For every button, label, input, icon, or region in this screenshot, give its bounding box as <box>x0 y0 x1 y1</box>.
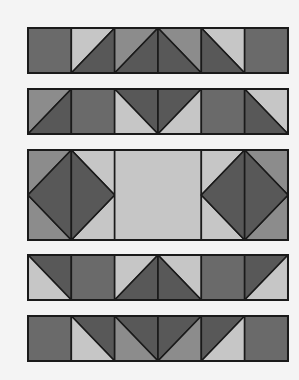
row-5 <box>28 316 288 361</box>
solid-panel <box>115 150 202 240</box>
solid-square <box>201 89 244 134</box>
quilt-block <box>71 89 114 134</box>
quilt-block <box>28 89 71 134</box>
quilt-block <box>245 255 288 300</box>
row-2 <box>28 89 288 134</box>
solid-square <box>71 89 114 134</box>
quilt-block <box>158 316 201 361</box>
row-1 <box>28 28 288 73</box>
quilt-block <box>201 316 244 361</box>
quilt-block <box>158 89 201 134</box>
quilt-block <box>28 316 71 361</box>
quilt-block <box>115 255 158 300</box>
diamond-block <box>201 150 288 240</box>
row-3 <box>28 150 288 240</box>
quilt-block <box>245 316 288 361</box>
quilt-block <box>201 255 244 300</box>
quilt-block <box>245 28 288 73</box>
solid-square <box>245 28 288 73</box>
quilt-block <box>115 316 158 361</box>
quilt-block <box>201 28 244 73</box>
quilt-block <box>71 28 114 73</box>
solid-square <box>245 316 288 361</box>
solid-square <box>71 255 114 300</box>
quilt-block <box>201 89 244 134</box>
quilt-block <box>158 28 201 73</box>
quilt-block <box>115 28 158 73</box>
quilt-block <box>28 255 71 300</box>
quilt-block <box>158 255 201 300</box>
quilt-block <box>115 89 158 134</box>
quilt-block <box>245 89 288 134</box>
quilt-block <box>71 316 114 361</box>
quilt-block <box>71 255 114 300</box>
solid-square <box>28 28 71 73</box>
quilt-pattern-canvas <box>0 0 299 380</box>
solid-square <box>28 316 71 361</box>
row-4 <box>28 255 288 300</box>
center-panel <box>115 150 202 240</box>
solid-square <box>201 255 244 300</box>
quilt-block <box>28 28 71 73</box>
diamond-block <box>28 150 115 240</box>
